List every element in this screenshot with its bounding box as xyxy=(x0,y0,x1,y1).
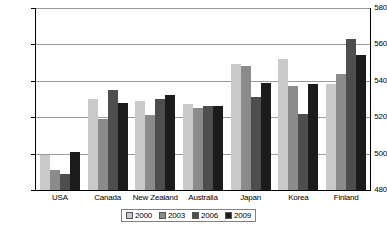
legend-item-2003: 2003 xyxy=(159,212,185,220)
legend-swatch-icon xyxy=(159,212,166,219)
bar xyxy=(288,86,298,190)
bar xyxy=(50,170,60,190)
bar xyxy=(278,59,288,190)
legend-item-2006: 2006 xyxy=(192,212,218,220)
x-tick-label: Korea xyxy=(275,193,323,202)
bar-group-inner xyxy=(84,8,132,190)
bar xyxy=(261,83,271,190)
bar xyxy=(88,99,98,190)
bar-group xyxy=(84,8,132,190)
bar xyxy=(135,101,145,190)
legend-label: 2009 xyxy=(234,212,251,220)
legend-label: 2003 xyxy=(168,212,185,220)
bar xyxy=(60,174,70,190)
bar xyxy=(231,64,241,190)
bar-group-inner xyxy=(275,8,323,190)
x-tick-label: USA xyxy=(36,193,84,202)
bar xyxy=(326,84,336,190)
bar xyxy=(155,99,165,190)
bar xyxy=(118,103,128,190)
x-tick-label: Australia xyxy=(179,193,227,202)
x-tick-label: Canada xyxy=(84,193,132,202)
bar-group xyxy=(36,8,84,190)
x-axis-line xyxy=(35,190,371,191)
bar xyxy=(356,55,366,190)
bar xyxy=(145,115,155,190)
bar xyxy=(298,114,308,190)
legend-item-2000: 2000 xyxy=(126,212,152,220)
bar xyxy=(203,106,213,190)
bar xyxy=(108,90,118,190)
bar xyxy=(165,95,175,190)
legend-swatch-icon xyxy=(126,212,133,219)
plot-right-border xyxy=(370,8,371,191)
bar xyxy=(346,39,356,190)
legend-swatch-icon xyxy=(225,212,232,219)
plot-area xyxy=(36,8,370,190)
bar-group xyxy=(131,8,179,190)
bar-group xyxy=(322,8,370,190)
bar xyxy=(251,97,261,190)
bar-group xyxy=(227,8,275,190)
bar xyxy=(193,108,203,190)
bar-group xyxy=(275,8,323,190)
bar xyxy=(336,74,346,190)
legend-item-2009: 2009 xyxy=(225,212,251,220)
x-tick-label: Japan xyxy=(227,193,275,202)
bar xyxy=(183,104,193,190)
legend-label: 2006 xyxy=(201,212,218,220)
bar xyxy=(241,66,251,190)
bar-group-inner xyxy=(36,8,84,190)
bar xyxy=(70,152,80,190)
x-tick-label: Finland xyxy=(322,193,370,202)
x-tick-label: New Zealand xyxy=(131,193,179,202)
bar-chart: 580560540520500480 USACanadaNew ZealandA… xyxy=(0,0,387,240)
legend-label: 2000 xyxy=(135,212,152,220)
legend-swatch-icon xyxy=(192,212,199,219)
bar-group xyxy=(179,8,227,190)
bar-group-inner xyxy=(131,8,179,190)
chart-legend: 2000200320062009 xyxy=(121,209,256,222)
bar xyxy=(213,106,223,190)
bar-group-inner xyxy=(322,8,370,190)
bar xyxy=(308,84,318,190)
bar xyxy=(98,119,108,190)
bar-group-inner xyxy=(227,8,275,190)
bar xyxy=(40,155,50,190)
bar-group-inner xyxy=(179,8,227,190)
